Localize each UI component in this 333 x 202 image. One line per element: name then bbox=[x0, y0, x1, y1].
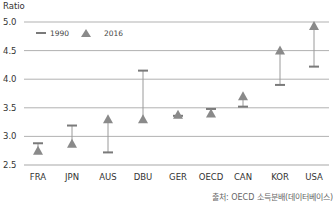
x-tick-label: KOR bbox=[271, 172, 289, 182]
marker-2016-triangle bbox=[238, 91, 248, 100]
y-tick-label: 4.5 bbox=[3, 46, 17, 56]
dumbbell-can bbox=[238, 91, 248, 107]
x-tick-label: FRA bbox=[30, 172, 46, 182]
marker-1990 bbox=[238, 106, 248, 108]
x-tick-label: JPN bbox=[64, 172, 79, 182]
marker-1990 bbox=[275, 84, 285, 86]
marker-2016-triangle bbox=[67, 139, 77, 148]
x-tick-label: OECD bbox=[199, 172, 224, 182]
marker-2016-triangle bbox=[103, 114, 113, 123]
y-tick-label: 5.0 bbox=[3, 17, 17, 27]
marker-1990 bbox=[138, 70, 148, 72]
y-tick-label: 4.0 bbox=[3, 74, 17, 84]
marker-2016-triangle bbox=[33, 146, 43, 155]
legend-2016-icon bbox=[81, 29, 91, 37]
y-axis-ticks: 2.53.03.54.04.55.0 bbox=[3, 17, 17, 170]
x-tick-label: USA bbox=[305, 172, 323, 182]
x-axis-labels: FRAJPNAUSDBUGEROECDCANKORUSA bbox=[30, 172, 323, 182]
legend: 19902016 bbox=[36, 29, 123, 38]
y-tick-label: 3.5 bbox=[3, 103, 17, 113]
legend-1990-icon bbox=[36, 32, 46, 34]
y-tick-label: 3.0 bbox=[3, 131, 17, 141]
dumbbell-fra bbox=[33, 142, 43, 154]
dumbbell-kor bbox=[275, 46, 285, 86]
x-tick-label: GER bbox=[169, 172, 187, 182]
source-note: 출처: OECD 소득분배(데이터베이스) bbox=[212, 191, 333, 202]
marker-2016-triangle bbox=[173, 110, 183, 119]
x-tick-label: AUS bbox=[99, 172, 116, 182]
x-tick-label: DBU bbox=[134, 172, 153, 182]
data-series bbox=[33, 21, 319, 155]
dumbbell-usa bbox=[309, 21, 319, 68]
marker-1990 bbox=[103, 151, 113, 153]
legend-2016-label: 2016 bbox=[104, 29, 123, 38]
dumbbell-dbu bbox=[138, 70, 148, 124]
marker-1990 bbox=[33, 142, 43, 144]
legend-1990-label: 1990 bbox=[50, 29, 69, 38]
marker-1990 bbox=[67, 125, 77, 127]
marker-2016-triangle bbox=[138, 114, 148, 123]
marker-1990 bbox=[309, 66, 319, 68]
dumbbell-aus bbox=[103, 114, 113, 153]
x-tick-label: CAN bbox=[234, 172, 252, 182]
dumbbell-oecd bbox=[206, 108, 216, 118]
dumbbell-ger bbox=[173, 110, 183, 119]
marker-2016-triangle bbox=[275, 46, 285, 55]
y-tick-label: 2.5 bbox=[3, 160, 17, 170]
